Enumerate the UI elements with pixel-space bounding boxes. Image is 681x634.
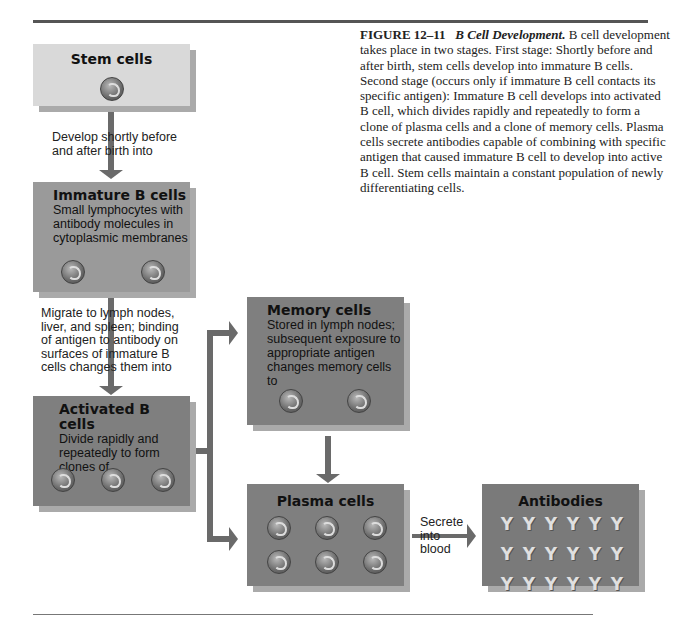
antibodies-title: Antibodies bbox=[482, 494, 639, 509]
memory-cell-icon bbox=[347, 389, 371, 413]
figure-number: FIGURE 12–11 bbox=[360, 27, 446, 42]
antibody-icon: Y bbox=[606, 574, 628, 594]
arrow-head-icon bbox=[99, 386, 123, 395]
lymphocyte-icon bbox=[61, 260, 85, 284]
stem-cell-icon bbox=[100, 77, 124, 101]
antibody-grid: Y Y Y Y Y Y Y Y Y Y Y Y Y Y Y Y Y Y bbox=[496, 514, 628, 594]
antibody-icon: Y bbox=[606, 514, 628, 534]
memory-cells-title: Memory cells bbox=[267, 303, 404, 318]
antibody-icon: Y bbox=[540, 514, 562, 534]
antibody-icon: Y bbox=[584, 544, 606, 564]
figure-title: B Cell Development. bbox=[455, 27, 565, 42]
top-rule bbox=[33, 20, 648, 23]
memory-cell-icon bbox=[279, 389, 303, 413]
plasma-cell-icon bbox=[267, 550, 291, 574]
branch-to-plasma bbox=[207, 536, 229, 542]
branch-to-memory bbox=[207, 330, 229, 336]
edge-label-secrete: Secrete into blood bbox=[420, 516, 470, 557]
branch-vertical bbox=[207, 330, 213, 542]
arrow-memory-to-plasma bbox=[325, 436, 331, 474]
plasma-cell-icon bbox=[267, 516, 291, 540]
antibodies-box: Antibodies Y Y Y Y Y Y Y Y Y Y Y Y Y Y Y… bbox=[482, 484, 639, 586]
plasma-cell-icon bbox=[315, 550, 339, 574]
arrow-head-icon bbox=[229, 321, 238, 345]
antibody-icon: Y bbox=[540, 574, 562, 594]
activated-b-cells-box: Activated B cells Divide rapidly and rep… bbox=[33, 396, 190, 506]
antibody-icon: Y bbox=[540, 544, 562, 564]
plasma-cells-title: Plasma cells bbox=[247, 494, 404, 509]
antibody-icon: Y bbox=[584, 514, 606, 534]
plasma-cells-box: Plasma cells bbox=[247, 484, 404, 586]
plasma-cell-icon bbox=[363, 550, 387, 574]
antibody-icon: Y bbox=[518, 574, 540, 594]
caption-body: B cell development takes place in two st… bbox=[360, 27, 670, 195]
arrow-head-icon bbox=[316, 474, 340, 483]
activated-b-cells-description: Divide rapidly and repeatedly to form cl… bbox=[59, 432, 190, 474]
antibody-icon: Y bbox=[518, 544, 540, 564]
activated-cell-icon bbox=[151, 468, 175, 492]
antibody-icon: Y bbox=[562, 574, 584, 594]
activated-b-cells-title: Activated B cells bbox=[59, 402, 190, 432]
arrow-head-icon bbox=[229, 527, 238, 551]
immature-b-cells-description: Small lymphocytes with antibody molecule… bbox=[53, 203, 190, 245]
activated-cell-icon bbox=[51, 468, 75, 492]
arrow-head-icon bbox=[99, 170, 123, 179]
figure-caption: FIGURE 12–11 B Cell Development. B cell … bbox=[360, 27, 670, 195]
antibody-icon: Y bbox=[584, 574, 606, 594]
plasma-cell-icon bbox=[315, 516, 339, 540]
edge-label-immature-activated: Migrate to lymph nodes, liver, and splee… bbox=[41, 307, 191, 375]
antibody-icon: Y bbox=[518, 514, 540, 534]
plasma-cell-icon bbox=[363, 516, 387, 540]
stem-cells-title: Stem cells bbox=[33, 52, 190, 67]
lymphocyte-icon bbox=[141, 260, 165, 284]
antibody-icon: Y bbox=[606, 544, 628, 564]
edge-label-stem-immature: Develop shortly before and after birth i… bbox=[52, 131, 182, 158]
antibody-icon: Y bbox=[562, 514, 584, 534]
antibody-icon: Y bbox=[562, 544, 584, 564]
activated-cell-icon bbox=[101, 468, 125, 492]
immature-b-cells-title: Immature B cells bbox=[53, 188, 190, 203]
antibody-icon: Y bbox=[496, 514, 518, 534]
immature-b-cells-box: Immature B cells Small lymphocytes with … bbox=[33, 182, 190, 292]
antibody-icon: Y bbox=[496, 544, 518, 564]
antibody-icon: Y bbox=[496, 574, 518, 594]
bottom-rule bbox=[33, 614, 593, 615]
memory-cells-box: Memory cells Stored in lymph nodes; subs… bbox=[247, 297, 404, 425]
memory-cells-description: Stored in lymph nodes; subsequent exposu… bbox=[267, 318, 404, 388]
stem-cells-box: Stem cells bbox=[33, 44, 190, 106]
